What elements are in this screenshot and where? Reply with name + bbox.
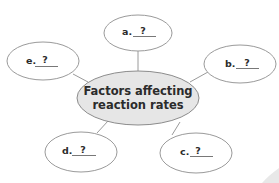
node-a-ellipse [104,15,172,51]
node-a: a. ? [104,15,172,51]
connector-c [172,122,180,135]
node-b: b. ? [204,45,276,83]
center-title-line2: reaction rates [92,98,183,112]
node-e-letter: e. [26,55,36,66]
node-a-letter: a. [122,26,132,37]
node-c: c. ? [160,133,232,173]
node-a-question-mark: ? [140,25,146,36]
node-b-letter: b. [225,58,235,69]
page-corner-shadow [262,168,279,183]
node-d: d. ? [45,132,117,172]
node-b-ellipse [204,45,276,83]
node-d-question-mark: ? [80,144,86,155]
node-c-question-mark: ? [195,145,201,156]
connector-b [190,72,208,82]
node-b-question-mark: ? [244,57,250,68]
concept-map-diagram: Factors affecting reaction rates a. ? b.… [0,0,279,183]
node-c-letter: c. [180,146,189,157]
center-title-line1: Factors affecting [83,84,192,98]
node-d-letter: d. [62,145,72,156]
connector-e [73,74,88,82]
connector-d [97,121,108,133]
node-e: e. ? [7,42,79,80]
center-node: Factors affecting reaction rates [77,71,199,125]
node-e-question-mark: ? [42,54,48,65]
